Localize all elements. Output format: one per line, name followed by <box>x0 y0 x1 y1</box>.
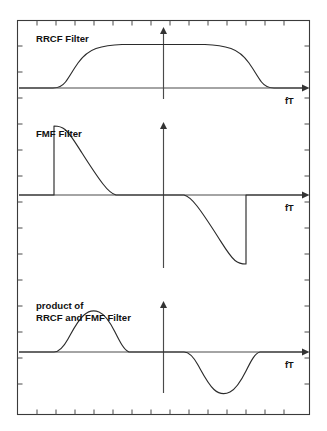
filter-response-figure: RRCF Filter fT FMF Filter fT <box>0 0 327 431</box>
panel2-xaxis-label: fT <box>285 203 294 213</box>
panel-rrcf-filter: RRCF Filter fT <box>19 27 310 106</box>
rrcf-magnitude-curve <box>19 45 302 89</box>
figure-root: RRCF Filter fT FMF Filter fT <box>0 0 327 431</box>
frame-ticks-bottom <box>37 410 284 415</box>
panel2-y-axis-arrowhead <box>160 122 167 129</box>
panel-product-filter: product of RRCF and FMF Filter fT <box>19 300 310 393</box>
panel1-label: RRCF Filter <box>36 33 89 44</box>
panel2-label: FMF Filter <box>36 128 82 139</box>
frame-ticks-top <box>37 21 284 26</box>
panel2-x-axis-arrowhead <box>302 191 310 198</box>
panel3-label-line2: RRCF and FMF Filter <box>36 312 131 323</box>
panel1-xaxis-label: fT <box>285 96 294 106</box>
panel3-x-axis-arrowhead <box>302 348 310 355</box>
panel1-y-axis-arrowhead <box>160 27 167 34</box>
panel1-x-axis-arrowhead <box>302 84 310 91</box>
frame-ticks-right <box>305 46 310 384</box>
frame-ticks-left <box>18 46 23 384</box>
panel-fmf-filter: FMF Filter fT <box>19 122 310 268</box>
panel3-y-axis-arrowhead <box>160 301 167 308</box>
panel3-xaxis-label: fT <box>285 360 294 370</box>
panel3-label-line1: product of <box>36 300 84 311</box>
